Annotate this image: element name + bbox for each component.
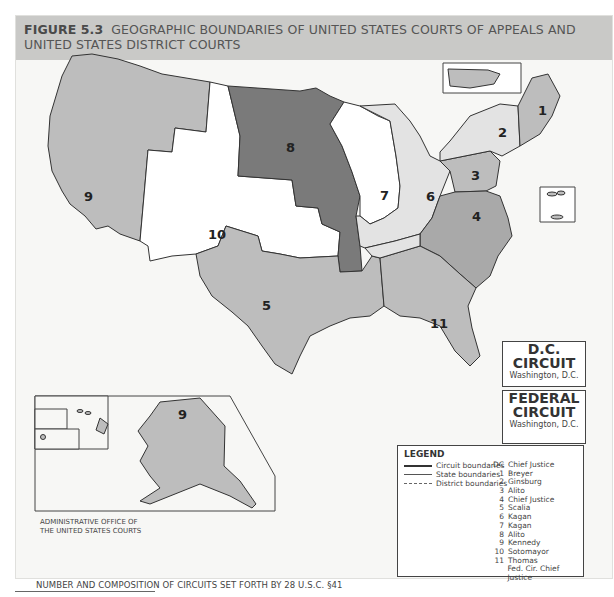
- legend-title: LEGEND: [404, 449, 444, 459]
- federal-circuit-title-2: CIRCUIT: [503, 405, 585, 419]
- federal-circuit-location: Washington, D.C.: [503, 420, 585, 429]
- circuit-line-sample-icon: [404, 465, 432, 467]
- circuit-num-3: 3: [471, 168, 480, 183]
- circuit-num-10: 10: [208, 227, 226, 242]
- admin-office-line-2: THE UNITED STATES COURTS: [40, 527, 141, 536]
- circuit-num-9-alaska: 9: [178, 407, 187, 422]
- federal-circuit-box: FEDERAL CIRCUIT Washington, D.C.: [502, 390, 586, 444]
- state-line-sample-icon: [404, 474, 432, 475]
- footnote-divider: [15, 591, 155, 592]
- dc-circuit-location: Washington, D.C.: [503, 371, 585, 380]
- circuit-num-4: 4: [472, 209, 481, 224]
- admin-office-line-1: ADMINISTRATIVE OFFICE OF: [40, 518, 141, 527]
- dc-circuit-title-1: D.C.: [503, 342, 585, 356]
- circuit-num-1: 1: [538, 103, 547, 118]
- circuit-num-5: 5: [262, 298, 271, 313]
- legend-justice-list: DCChief Justice 1Breyer 2Ginsburg 3Alito…: [490, 461, 583, 574]
- justice-row: Fed. Cir. Chief Justice: [490, 565, 583, 574]
- circuit-num-6: 6: [426, 189, 435, 204]
- circuit-num-8: 8: [286, 140, 295, 155]
- district-line-sample-icon: [404, 483, 432, 484]
- legend-box: LEGEND Circuit boundaries State boundari…: [397, 445, 584, 577]
- dc-circuit-box: D.C. CIRCUIT Washington, D.C.: [502, 341, 586, 387]
- circuit-num-7: 7: [380, 188, 389, 203]
- dc-circuit-title-2: CIRCUIT: [503, 356, 585, 370]
- circuit-num-2: 2: [498, 125, 507, 140]
- figure-caption: NUMBER AND COMPOSITION OF CIRCUITS SET F…: [36, 580, 343, 590]
- admin-office-label: ADMINISTRATIVE OFFICE OF THE UNITED STAT…: [40, 518, 141, 536]
- circuit-num-11: 11: [430, 316, 448, 331]
- circuit-2-region: [440, 104, 520, 161]
- mariana-inset: [35, 409, 67, 429]
- circuit-num-9: 9: [84, 189, 93, 204]
- federal-circuit-title-1: FEDERAL: [503, 391, 585, 405]
